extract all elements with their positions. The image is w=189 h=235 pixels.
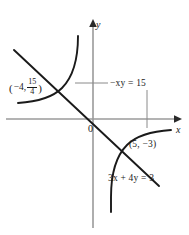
- math-graph-figure: y x 0 −xy = 15 3x + 4y = 3 ( −4, 15 4 ) …: [0, 0, 189, 235]
- hyperbola-equation-label: −xy = 15: [110, 79, 146, 89]
- left-point-x-value: −4,: [14, 83, 26, 93]
- line-equation-label: 3x + 4y = 3: [108, 174, 154, 184]
- x-axis-label: x: [176, 125, 180, 135]
- right-paren: ): [38, 83, 42, 94]
- line-curve: [14, 50, 159, 186]
- origin-label: 0: [88, 124, 93, 134]
- line-3x-4y-3: [14, 50, 159, 186]
- y-axis-label: y: [96, 20, 100, 30]
- fraction-numerator: 15: [27, 78, 37, 87]
- graph-canvas: [0, 0, 189, 235]
- leader-lines-group: [75, 83, 147, 128]
- intersection-point-label-right: (5, −3): [129, 140, 156, 150]
- fraction-denominator: 4: [27, 87, 37, 97]
- hyperbola-curve: [18, 36, 171, 212]
- axes-group: [6, 19, 182, 228]
- fraction-fifteen-fourths: 15 4: [27, 78, 37, 96]
- x-axis-arrowhead: [174, 115, 182, 123]
- intersection-point-label-left: ( −4, 15 4 ): [9, 79, 42, 97]
- left-paren: (: [9, 83, 13, 94]
